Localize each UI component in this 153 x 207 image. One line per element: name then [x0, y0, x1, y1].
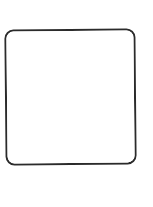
- top-margin: [0, 0, 153, 29]
- rounded-square-outline: [4, 28, 136, 165]
- image-canvas: [0, 0, 153, 207]
- bottom-margin: [0, 165, 153, 207]
- right-margin: [136, 29, 153, 165]
- empty-content-label: [6, 32, 7, 33]
- empty-content-area: [6, 30, 134, 163]
